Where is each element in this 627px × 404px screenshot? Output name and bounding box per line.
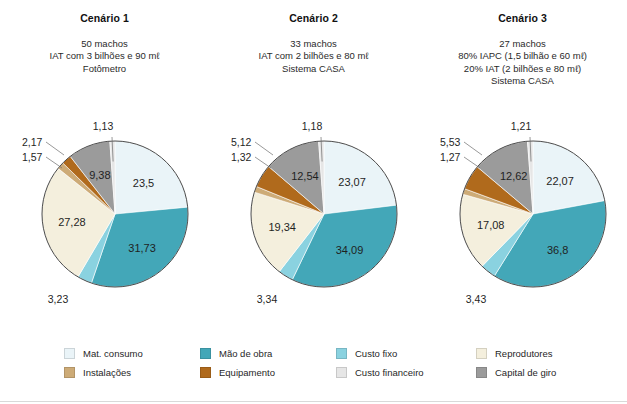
slice-value-label: 22,07 [546,175,574,187]
pie-chart-cenario-1: 23,531,733,2327,281,572,179,381,13 [0,118,209,330]
slice-value-label: 34,09 [336,244,364,256]
slice-value-label: 3,23 [48,293,69,305]
slice-value-label: 36,8 [547,244,568,256]
label-leader-line [46,142,64,155]
legend-column-1: Mat. consumo Instalações [64,344,143,382]
legend-swatch-mat-consumo [64,348,75,359]
legend-item: Mão de obra [200,344,275,363]
legend-swatch-capital-de-giro [476,367,487,378]
slice-value-label: 27,28 [58,216,86,228]
legend-label: Mat. consumo [83,348,143,359]
legend-label: Mão de obra [219,348,272,359]
slice-value-label: 1,32 [231,151,252,163]
label-leader-line [255,157,271,168]
slice-value-label: 1,18 [302,120,323,132]
scenario-line: IAT com 2 bilhões e 80 mℓ [209,50,418,63]
bottom-divider [0,401,627,402]
legend-item: Mat. consumo [64,344,143,363]
legend-item: Instalações [64,363,143,382]
legend-item: Equipamento [200,363,275,382]
slice-value-label: 19,34 [268,221,296,233]
pie-chart-cenario-3: 22,0736,83,4317,081,275,5312,621,21 [418,118,627,330]
scenario-line: IAT com 3 bilhões e 90 mℓ [0,50,209,63]
slice-value-label: 12,54 [291,170,319,182]
figure-root: Cenário 1 50 machos IAT com 3 bilhões e … [0,0,627,404]
scenario-line: Sistema CASA [418,75,627,88]
legend-swatch-instalacoes [64,367,75,378]
legend-column-2: Mão de obra Equipamento [200,344,275,382]
scenario-headers: Cenário 1 50 machos IAT com 3 bilhões e … [0,0,627,120]
scenario-line: Sistema CASA [209,63,418,76]
label-leader-line [46,157,62,168]
slice-value-label: 1,27 [440,151,461,163]
scenario-line: 27 machos [418,38,627,51]
legend-label: Custo fixo [355,348,397,359]
legend-swatch-custo-fixo [336,348,347,359]
scenario-header-1: Cenário 1 50 machos IAT com 3 bilhões e … [0,0,209,120]
legend-label: Custo financeiro [355,367,424,378]
scenario-title: Cenário 2 [209,12,418,26]
label-leader-line [464,142,482,155]
slice-value-label: 23,07 [338,176,366,188]
legend-label: Instalações [83,367,131,378]
legend-item: Capital de giro [476,363,556,382]
label-leader-line [464,157,480,168]
slice-value-label: 1,57 [22,151,43,163]
scenario-header-3: Cenário 3 27 machos 80% IAPC (1,5 bilhão… [418,0,627,120]
legend-item: Custo fixo [336,344,424,363]
slice-value-label: 1,13 [93,120,114,132]
scenario-description-3: 27 machos 80% IAPC (1,5 bilhão e 60 mℓ) … [418,38,627,88]
slice-value-label: 9,38 [89,169,110,181]
slice-value-label: 5,53 [440,136,461,148]
legend-swatch-reprodutores [476,348,487,359]
pie-chart-cenario-2: 23,0734,093,3419,341,325,1212,541,18 [209,118,418,330]
slice-value-label: 12,62 [500,170,528,182]
legend-swatch-custo-financeiro [336,367,347,378]
scenario-description-2: 33 machos IAT com 2 bilhões e 80 mℓ Sist… [209,38,418,76]
scenario-title: Cenário 1 [0,12,209,26]
pie-charts-row: 23,531,733,2327,281,572,179,381,13 23,07… [0,118,627,330]
slice-value-label: 23,5 [133,177,154,189]
scenario-line: 80% IAPC (1,5 bilhão e 60 mℓ) [418,50,627,63]
label-leader-line [255,142,273,155]
legend-swatch-mao-de-obra [200,348,211,359]
slice-value-label: 3,34 [257,293,278,305]
legend-swatch-equipamento [200,367,211,378]
chart-legend: Mat. consumo Instalações Mão de obra Equ… [0,344,627,394]
scenario-header-2: Cenário 2 33 machos IAT com 2 bilhões e … [209,0,418,120]
legend-column-4: Reprodutores Capital de giro [476,344,556,382]
legend-column-3: Custo fixo Custo financeiro [336,344,424,382]
slice-value-label: 1,21 [511,120,532,132]
legend-item: Custo financeiro [336,363,424,382]
legend-label: Equipamento [219,367,275,378]
scenario-line: 50 machos [0,38,209,51]
scenario-line: 33 machos [209,38,418,51]
slice-value-label: 3,43 [466,293,487,305]
slice-value-label: 17,08 [477,219,505,231]
slice-value-label: 31,73 [128,242,156,254]
scenario-title: Cenário 3 [418,12,627,26]
slice-value-label: 5,12 [231,136,252,148]
scenario-description-1: 50 machos IAT com 3 bilhões e 90 mℓ Fotô… [0,38,209,76]
scenario-line: 20% IAT (2 bilhões e 80 mℓ) [418,63,627,76]
legend-label: Capital de giro [495,367,556,378]
legend-item: Reprodutores [476,344,556,363]
scenario-line: Fotômetro [0,63,209,76]
slice-value-label: 2,17 [22,136,43,148]
legend-label: Reprodutores [495,348,553,359]
